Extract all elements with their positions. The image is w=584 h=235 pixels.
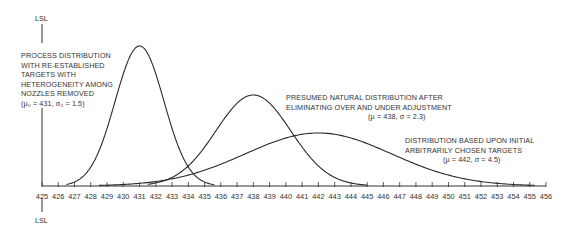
annotation-natural-distribution: PRESUMED NATURAL DISTRIBUTION AFTER ELIM… [286, 93, 452, 122]
x-axis-tick-label: 429 [101, 192, 113, 201]
x-axis-tick-label: 453 [491, 192, 503, 201]
x-axis-tick-label: 448 [410, 192, 422, 201]
x-axis-tick-label: 456 [540, 192, 552, 201]
annotation-line: HETEROGENEITY AMONG [21, 80, 113, 90]
x-axis-tick-label: 446 [377, 192, 389, 201]
lsl-label-bottom: LSL [35, 216, 48, 225]
annotation-line: ARBITRARILY CHOSEN TARGETS [405, 146, 534, 156]
annotation-line: NOZZLES REMOVED [21, 89, 113, 99]
x-axis-tick-label: 450 [442, 192, 454, 201]
x-axis-tick-label: 433 [166, 192, 178, 201]
x-axis-tick-label: 434 [182, 192, 194, 201]
x-axis-tick-label: 430 [117, 192, 129, 201]
lsl-label-top: LSL [35, 14, 48, 23]
x-axis-tick-label: 439 [263, 192, 275, 201]
x-axis-tick-label: 441 [296, 192, 308, 201]
x-axis-tick-label: 447 [394, 192, 406, 201]
annotation-line: ELIMINATING OVER AND UNDER ADJUSTMENT [286, 103, 452, 113]
annotation-params: (μ = 442, σ = 4.5) [405, 155, 534, 165]
x-axis-tick-label: 445 [361, 192, 373, 201]
x-axis-tick-label: 449 [426, 192, 438, 201]
x-axis-tick-label: 451 [459, 192, 471, 201]
x-axis-tick-label: 435 [198, 192, 210, 201]
annotation-line: PROCESS DISTRIBUTION [21, 51, 113, 61]
annotation-process-distribution: PROCESS DISTRIBUTION WITH RE-ESTABLISHED… [21, 51, 113, 109]
distribution-chart: 4254264274284294304314324334344354364374… [0, 0, 584, 235]
x-axis-tick-label: 444 [345, 192, 357, 201]
x-axis-tick-label: 440 [280, 192, 292, 201]
x-axis-tick-label: 437 [231, 192, 243, 201]
annotation-line: TARGETS WITH [21, 70, 113, 80]
annotation-line: DISTRIBUTION BASED UPON INITIAL [405, 136, 534, 146]
x-axis-tick-label: 454 [507, 192, 519, 201]
x-axis-tick-label: 455 [524, 192, 536, 201]
x-axis-tick-label: 432 [150, 192, 162, 201]
annotation-params: (μ₀ = 431, σ₀ = 1.5) [21, 99, 113, 109]
x-axis-tick-label: 442 [312, 192, 324, 201]
x-axis-tick-label: 431 [133, 192, 145, 201]
x-axis-tick-label: 428 [85, 192, 97, 201]
x-axis-tick-label: 443 [328, 192, 340, 201]
annotation-params: (μ = 438, σ = 2.3) [286, 112, 452, 122]
x-axis-tick-label: 436 [215, 192, 227, 201]
annotation-line: WITH RE-ESTABLISHED [21, 61, 113, 71]
annotation-line: PRESUMED NATURAL DISTRIBUTION AFTER [286, 93, 452, 103]
annotation-initial-distribution: DISTRIBUTION BASED UPON INITIAL ARBITRAR… [405, 136, 534, 165]
x-axis-tick-label: 438 [247, 192, 259, 201]
x-axis-tick-label: 452 [475, 192, 487, 201]
x-axis-tick-label: 427 [68, 192, 80, 201]
x-axis-tick-label: 426 [52, 192, 64, 201]
